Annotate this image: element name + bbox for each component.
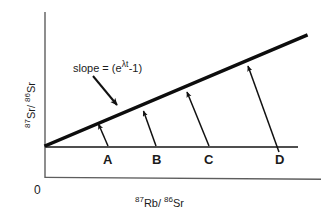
x-axis-title: 87Rb/ 86Sr (135, 196, 184, 209)
growth-arrow-b (144, 111, 157, 146)
isochron-plot-canvas (0, 0, 330, 224)
growth-arrow-c (187, 92, 209, 146)
origin-label: 0 (34, 184, 41, 196)
slope-lead-text: slope = (e (73, 62, 122, 74)
x-axis-element-2: Sr (173, 197, 184, 209)
y-axis-mass-1: 87 (23, 119, 32, 128)
y-axis-element-2: Sr (25, 82, 37, 93)
growth-arrow-d (248, 66, 279, 152)
sample-label-b: B (152, 153, 162, 166)
y-axis-title: 87Sr/ 86Sr (24, 82, 37, 128)
x-axis-mass-1: 87 (135, 195, 144, 204)
x-axis-element-1: Rb/ (144, 197, 161, 209)
x-axis-mass-2: 86 (164, 195, 173, 204)
y-axis-element-1: Sr/ (25, 105, 37, 119)
growth-arrow-a (99, 124, 109, 146)
sample-label-c: C (204, 153, 214, 166)
slope-exponent-text: λt (122, 59, 129, 69)
isochron-diagram: 87Sr/ 86Sr 87Rb/ 86Sr 0 slope = (eλt-1) … (0, 0, 330, 224)
y-axis-mass-2: 86 (23, 93, 32, 102)
sample-label-d: D (275, 153, 285, 166)
slope-annotation: slope = (eλt-1) (73, 60, 142, 74)
slope-tail-text: -1) (129, 62, 142, 74)
sample-label-a: A (103, 153, 113, 166)
x-axis-line (45, 177, 321, 179)
isochron-line (46, 36, 306, 146)
slope-leader-arrow (93, 76, 117, 105)
